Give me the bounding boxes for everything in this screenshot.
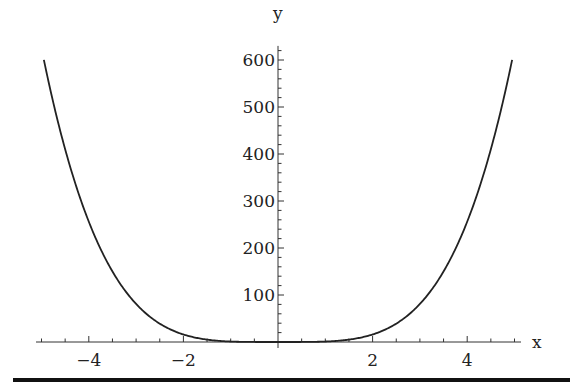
y-tick-label: 500 bbox=[243, 97, 275, 117]
y-axis-label: y bbox=[272, 3, 283, 23]
chart-canvas: −4−224 100200300400500600 x y bbox=[0, 0, 574, 390]
y-tick-label: 300 bbox=[243, 191, 275, 211]
bottom-rule bbox=[13, 378, 570, 382]
x-axis-label: x bbox=[532, 332, 542, 352]
y-tick-label: 100 bbox=[243, 285, 275, 305]
y-tick-label: 400 bbox=[243, 144, 275, 164]
y-tick-label: 600 bbox=[243, 50, 275, 70]
y-tick-label: 200 bbox=[243, 238, 275, 258]
x-tick-label: −2 bbox=[171, 350, 196, 370]
y-axis: 100200300400500600 bbox=[243, 46, 284, 348]
x-tick-label: −4 bbox=[76, 350, 101, 370]
x-tick-label: 2 bbox=[367, 350, 378, 370]
x-tick-label: 4 bbox=[462, 350, 473, 370]
